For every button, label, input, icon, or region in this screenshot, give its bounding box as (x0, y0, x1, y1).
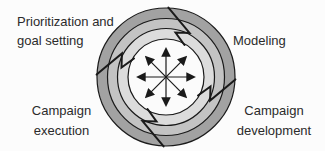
label-prioritization-and-goal-setting: Prioritization and goal setting (17, 12, 114, 50)
radial-arrows-icon (138, 49, 194, 105)
label-campaign-development: Campaign development (230, 101, 318, 141)
label-modeling: Modeling (233, 31, 286, 50)
label-campaign-execution: Campaign execution (18, 101, 105, 141)
campaign-cycle-diagram: Prioritization and goal setting Modeling… (0, 0, 325, 151)
